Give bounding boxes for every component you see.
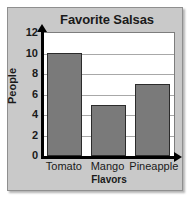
x-tick-label: Tomato — [42, 159, 86, 173]
chart-figure: Favorite Salsas 024681012 People TomatoM… — [0, 0, 190, 199]
bar — [91, 105, 126, 156]
y-tick-label: 10 — [14, 48, 38, 59]
x-axis-title: Flavors — [42, 174, 176, 185]
y-tick-label: 12 — [14, 27, 38, 38]
bar — [47, 53, 82, 156]
y-tick-label: 0 — [14, 150, 38, 161]
y-axis-arrow-icon — [37, 24, 47, 32]
plot-area — [42, 32, 175, 157]
y-axis-line — [41, 31, 44, 159]
bar — [135, 84, 170, 156]
y-tick-label: 2 — [14, 130, 38, 141]
x-tick-label: Pineapple — [129, 159, 173, 173]
chart-title: Favorite Salsas — [34, 11, 180, 29]
y-axis-title: People — [6, 61, 18, 111]
bar-series — [43, 33, 174, 156]
x-axis-tick-labels: TomatoMangoPineapple — [42, 159, 176, 174]
x-tick-label: Mango — [86, 159, 130, 173]
